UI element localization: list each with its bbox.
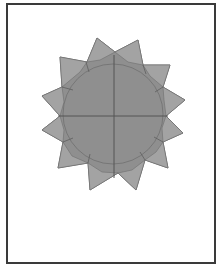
origami-star-diagram	[0, 0, 222, 269]
star-shape	[42, 38, 185, 190]
